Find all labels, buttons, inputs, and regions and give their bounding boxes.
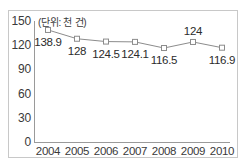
plot-area: (단위: 천 건) 0306090120150 138.9128124.5124… [9,11,239,159]
x-tick-label: 2004 [33,145,63,157]
x-tick-label: 2009 [178,145,208,157]
data-point-marker [104,39,109,44]
data-point-marker [133,39,138,44]
data-point-marker [191,39,196,44]
data-point-marker [75,36,80,41]
x-tick-label: 2006 [91,145,121,157]
data-point-marker [220,45,225,50]
x-tick-label: 2005 [62,145,92,157]
data-point-label: 116.5 [144,54,184,66]
x-tick-label: 2007 [120,145,150,157]
x-tick-label: 2010 [207,145,237,157]
data-point-label: 116.9 [202,54,242,66]
data-point-marker [162,46,167,51]
data-point-label: 124 [173,25,213,37]
x-tick-label: 2008 [149,145,179,157]
data-point-marker [46,27,51,32]
chart-figure: (단위: 천 건) 0306090120150 138.9128124.5124… [8,10,238,158]
